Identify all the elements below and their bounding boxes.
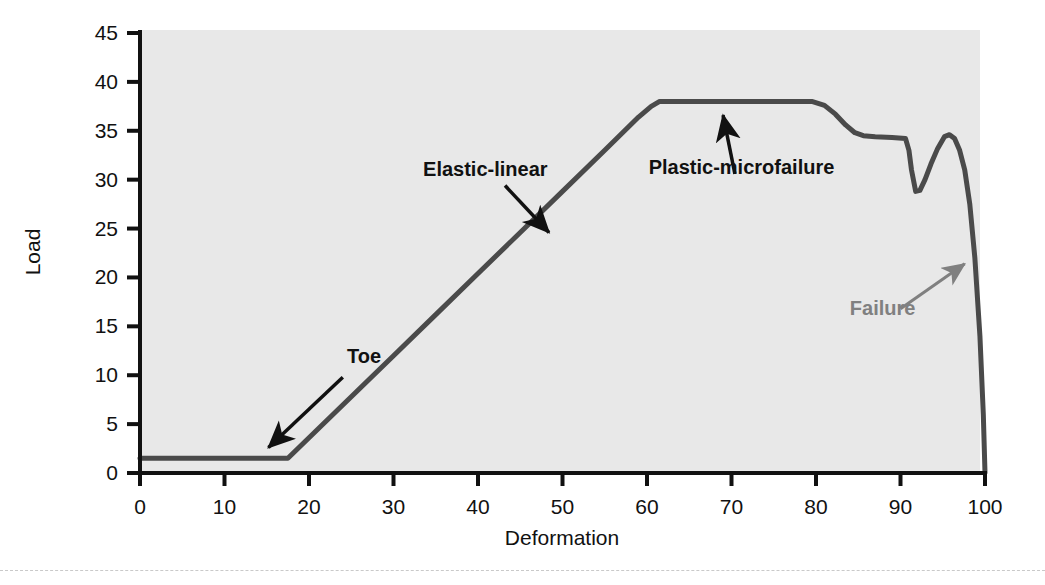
x-axis-tick-label: 70 [720, 495, 743, 518]
x-axis-tick-label: 30 [382, 495, 405, 518]
x-axis-tick-label: 10 [213, 495, 236, 518]
y-axis-tick-label: 35 [95, 119, 118, 142]
y-axis-tick-label: 45 [95, 21, 118, 44]
annotation-label-plastic-microfailure: Plastic-microfailure [649, 156, 835, 178]
x-axis-tick-label: 40 [466, 495, 489, 518]
x-axis-tick-label: 60 [635, 495, 658, 518]
y-axis-tick-label: 15 [95, 314, 118, 337]
y-axis-tick-label: 40 [95, 70, 118, 93]
x-axis-tick-label: 0 [134, 495, 146, 518]
y-axis-tick-label: 0 [106, 461, 118, 484]
y-axis-tick-label: 20 [95, 265, 118, 288]
y-axis-tick-label: 30 [95, 168, 118, 191]
x-axis-tick-labels: 0102030405060708090100 [134, 495, 1002, 518]
x-axis-tick-label: 20 [297, 495, 320, 518]
x-axis-tick-label: 80 [804, 495, 827, 518]
annotation-label-failure: Failure [850, 297, 916, 319]
y-axis-tick-label: 5 [106, 412, 118, 435]
y-axis-tick-labels: 051015202530354045 [95, 21, 118, 484]
plot-panel-background [140, 30, 980, 473]
figure-container: 051015202530354045 010203040506070809010… [0, 0, 1045, 585]
bottom-divider [0, 570, 1045, 571]
annotation-label-toe: Toe [347, 345, 381, 367]
annotation-label-elastic-linear: Elastic-linear [423, 158, 548, 180]
x-axis-tick-label: 90 [889, 495, 912, 518]
y-axis-tick-label: 25 [95, 217, 118, 240]
y-axis-title: Load [21, 229, 44, 276]
y-axis-tick-label: 10 [95, 363, 118, 386]
x-axis-title: Deformation [505, 526, 619, 549]
load-deformation-chart: 051015202530354045 010203040506070809010… [0, 0, 1045, 585]
x-axis-tick-label: 100 [967, 495, 1002, 518]
x-axis-tick-label: 50 [551, 495, 574, 518]
